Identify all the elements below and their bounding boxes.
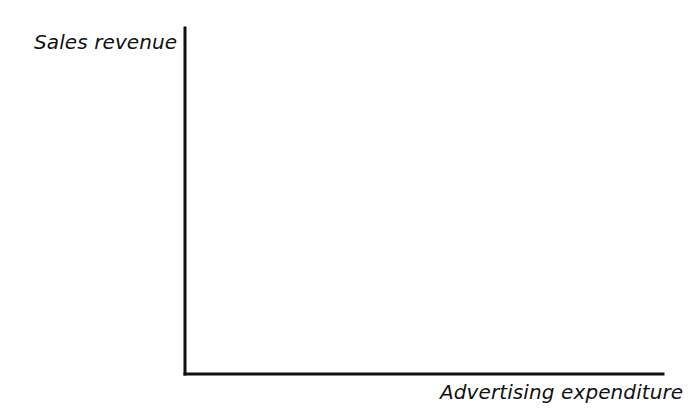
x-axis-label: Advertising expenditure [440,380,683,404]
scatter-plot-figure: Sales revenue Advertising expenditure [0,0,698,415]
y-axis-label: Sales revenue [34,30,177,54]
plot-canvas [0,0,698,415]
axes-group [185,28,663,374]
